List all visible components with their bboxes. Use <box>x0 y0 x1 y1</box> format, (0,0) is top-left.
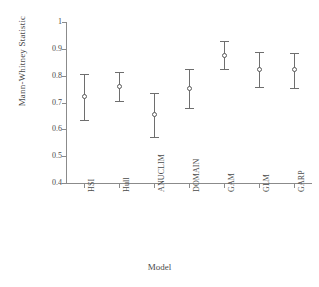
x-tick-mark <box>119 184 120 188</box>
y-tick-mark <box>62 49 66 50</box>
x-tick-mark <box>224 184 225 188</box>
x-tick-label-domain: DOMAIN <box>192 159 201 193</box>
y-tick-mark <box>62 156 66 157</box>
errorbar-cap-lower <box>290 88 299 89</box>
plot-area: 0.40.50.60.70.80.91 HSIHullANUCLIMDOMAIN… <box>66 22 312 184</box>
data-marker <box>117 84 122 89</box>
data-marker <box>82 94 87 99</box>
data-marker <box>187 86 192 91</box>
x-tick-label-glm: GLM <box>262 174 271 192</box>
y-tick-label: 0.9 <box>52 43 62 54</box>
x-tick-label-anuclim: ANUCLIM <box>157 154 166 192</box>
x-tick-label-garp: GARP <box>297 170 306 192</box>
x-axis-title: Model <box>0 262 319 272</box>
y-tick-label: 1 <box>58 16 62 27</box>
errorbar-cap-lower <box>255 87 264 88</box>
x-tick-mark <box>294 184 295 188</box>
y-tick-label: 0.6 <box>52 123 62 134</box>
data-marker <box>222 53 227 58</box>
data-marker <box>292 67 297 72</box>
x-tick-mark <box>154 184 155 188</box>
errorbar-cap-upper <box>115 72 124 73</box>
errorbar-cap-lower <box>115 101 124 102</box>
x-tick-mark <box>259 184 260 188</box>
errorbar-cap-upper <box>220 41 229 42</box>
errorbar-cap-upper <box>290 53 299 54</box>
errorbar-cap-upper <box>255 52 264 53</box>
x-tick-label-gam: GAM <box>227 173 236 192</box>
y-axis-line <box>66 22 67 184</box>
x-tick-label-hull: Hull <box>122 177 131 192</box>
x-tick-label-hsi: HSI <box>87 179 96 192</box>
errorbar-cap-upper <box>150 93 159 94</box>
y-tick-mark <box>62 183 66 184</box>
y-tick-label: 0.8 <box>52 70 62 81</box>
y-tick-label: 0.4 <box>52 177 62 188</box>
y-axis-title: Mann-Whitney Statistic <box>17 0 27 136</box>
x-tick-mark <box>84 184 85 188</box>
x-tick-mark <box>189 184 190 188</box>
y-tick-label: 0.7 <box>52 97 62 108</box>
y-tick-mark <box>62 22 66 23</box>
chart-figure: Mann-Whitney Statistic 0.40.50.60.70.80.… <box>0 0 319 287</box>
errorbar-cap-lower <box>80 120 89 121</box>
y-tick-mark <box>62 103 66 104</box>
errorbar-cap-lower <box>185 108 194 109</box>
errorbar-cap-upper <box>80 74 89 75</box>
y-tick-mark <box>62 76 66 77</box>
errorbar-cap-upper <box>185 69 194 70</box>
data-marker <box>152 112 157 117</box>
y-tick-label: 0.5 <box>52 150 62 161</box>
y-tick-mark <box>62 129 66 130</box>
data-marker <box>257 67 262 72</box>
errorbar-cap-lower <box>150 137 159 138</box>
errorbar-cap-lower <box>220 69 229 70</box>
